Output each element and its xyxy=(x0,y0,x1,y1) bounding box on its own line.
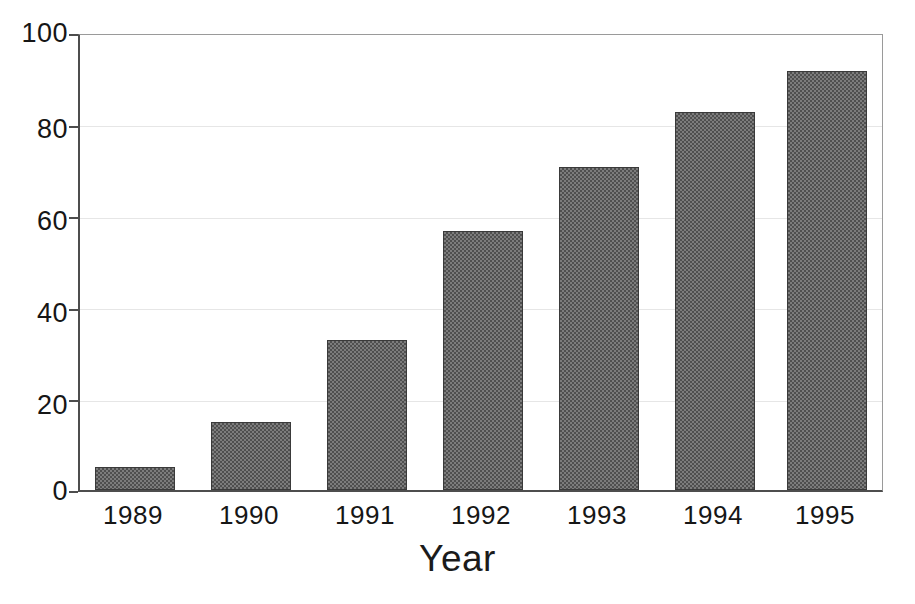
gridline-60 xyxy=(80,218,882,219)
bar-1994 xyxy=(675,112,755,490)
gridline-80 xyxy=(80,126,882,127)
bar-1992 xyxy=(443,231,523,490)
x-axis-tick-label-1995: 1995 xyxy=(785,502,865,528)
y-axis-tick-mark-40 xyxy=(69,309,78,311)
y-axis-tick-label-80: 80 xyxy=(37,116,68,143)
x-axis-tick-label-1990: 1990 xyxy=(209,502,289,528)
x-axis-tick-label-1994: 1994 xyxy=(673,502,753,528)
x-axis-title: Year xyxy=(0,540,915,577)
bar-1991 xyxy=(327,340,407,490)
y-axis-tick-mark-20 xyxy=(69,400,78,402)
bar-1990 xyxy=(211,422,291,490)
y-axis-tick-label-40: 40 xyxy=(37,300,68,327)
y-axis-tick-label-60: 60 xyxy=(37,208,68,235)
x-axis-tick-label-1992: 1992 xyxy=(441,502,521,528)
y-axis-tick-label-0: 0 xyxy=(52,478,68,505)
y-axis-tick-mark-60 xyxy=(69,217,78,219)
y-axis-tick-mark-80 xyxy=(69,126,78,128)
bar-1995 xyxy=(787,71,867,490)
screenshot-root: 100 80 60 40 20 0 1989 xyxy=(0,0,915,604)
x-axis-tick-label-1993: 1993 xyxy=(557,502,637,528)
x-axis-tick-label-1989: 1989 xyxy=(93,502,173,528)
y-axis-tick-mark-0 xyxy=(69,491,78,493)
bar-1993 xyxy=(559,167,639,490)
bar-1989 xyxy=(95,467,175,490)
y-axis-tick-mark-100 xyxy=(69,34,78,36)
x-axis-tick-label-1991: 1991 xyxy=(325,502,405,528)
bar-chart-figure: 100 80 60 40 20 0 1989 xyxy=(0,0,915,604)
y-axis-tick-label-100: 100 xyxy=(21,20,68,47)
plot-area xyxy=(78,34,883,492)
y-axis-tick-label-20: 20 xyxy=(37,392,68,419)
